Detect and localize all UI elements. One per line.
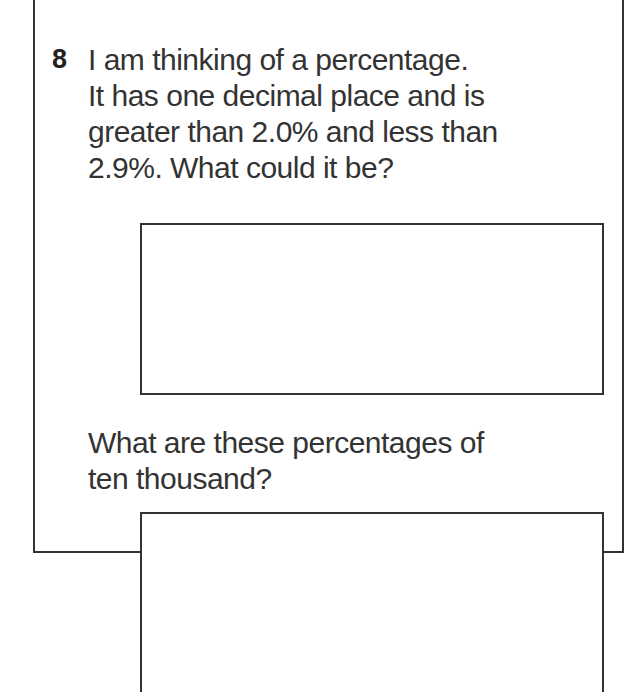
question-line: I am thinking of a percentage. [88, 42, 608, 78]
answer-box-ten-thousand[interactable] [140, 512, 604, 692]
question-number: 8 [52, 44, 67, 75]
followup-line: ten thousand? [88, 461, 588, 497]
answer-box-percentage[interactable] [140, 223, 604, 395]
question-line: greater than 2.0% and less than [88, 114, 608, 150]
question-text: I am thinking of a percentage. It has on… [88, 42, 608, 186]
followup-question-text: What are these percentages of ten thousa… [88, 425, 588, 497]
followup-line: What are these percentages of [88, 425, 588, 461]
question-line: 2.9%. What could it be? [88, 150, 608, 186]
question-line: It has one decimal place and is [88, 78, 608, 114]
